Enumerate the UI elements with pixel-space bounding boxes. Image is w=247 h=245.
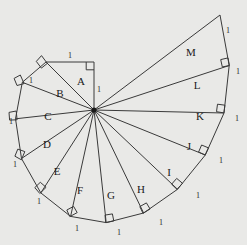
unit-label-1: 1 [97, 85, 101, 94]
spoke-r8 [94, 110, 144, 213]
unit-edge-G [71, 216, 107, 222]
unit-edge-F [41, 193, 71, 217]
triangle-label-L: L [194, 79, 201, 91]
hub-vertex [91, 107, 96, 112]
triangle-label-M: M [186, 46, 196, 58]
right-angle-marker-C [14, 75, 24, 86]
triangle-label-C: C [44, 110, 51, 122]
spoke-r5 [41, 110, 94, 193]
unit-length-label-group: 1 1 1 1 1 1 1 1 1 1 1 1 1 1 [9, 26, 240, 237]
spoke-r12 [94, 66, 229, 111]
unit-label-9: 1 [196, 191, 200, 200]
spoke-r7 [94, 110, 106, 223]
unit-label-8: 1 [159, 218, 163, 227]
right-angle-marker-A [86, 62, 94, 70]
unit-label-4: 1 [13, 160, 17, 169]
triangle-label-G: G [107, 189, 115, 201]
spoke-r13 [94, 15, 220, 110]
triangle-label-J: J [187, 140, 192, 152]
triangle-label-E: E [54, 165, 61, 177]
spiral-of-theodorus-figure: A B C D E F G H I J K L M 1 1 1 1 1 1 1 … [0, 0, 247, 245]
unit-edge-B [22, 62, 46, 82]
right-angle-marker-L [217, 104, 225, 113]
unit-label-3: 1 [9, 117, 13, 126]
triangle-label-A: A [77, 75, 85, 87]
triangle-label-group: A B C D E F G H I J K L M [43, 46, 204, 201]
unit-label-2: 1 [29, 76, 33, 85]
unit-label-12: 1 [236, 67, 240, 76]
spoke-r11 [94, 110, 224, 113]
unit-label-7: 1 [117, 228, 121, 237]
spiral-diagram-canvas: A B C D E F G H I J K L M 1 1 1 1 1 1 1 … [0, 0, 247, 245]
unit-label-11: 1 [235, 114, 239, 123]
triangle-label-I: I [167, 166, 171, 178]
triangle-label-H: H [137, 183, 145, 195]
spoke-r9 [94, 110, 178, 189]
triangle-label-B: B [56, 87, 63, 99]
unit-label-0: 1 [68, 51, 72, 60]
triangle-label-F: F [77, 184, 83, 196]
triangle-label-D: D [43, 138, 51, 150]
unit-label-13: 1 [226, 26, 230, 35]
unit-label-6: 1 [75, 224, 79, 233]
unit-label-5: 1 [37, 197, 41, 206]
spoke-r6 [71, 110, 94, 216]
unit-label-10: 1 [219, 156, 223, 165]
unit-edge-E [22, 159, 41, 193]
right-angle-marker-M [221, 58, 230, 67]
spoke-r1 [46, 62, 94, 110]
right-angle-marker-J [172, 178, 183, 189]
right-angle-marker-K [199, 145, 209, 155]
triangle-label-K: K [196, 110, 204, 122]
